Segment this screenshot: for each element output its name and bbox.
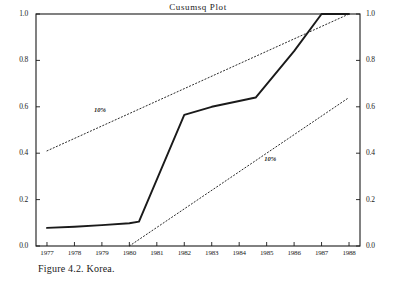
annotation-bound-0: 10% xyxy=(94,106,106,113)
chart-title: Cusumsq Plot xyxy=(0,2,396,12)
y-tick-right-2: 0.6 xyxy=(366,102,392,111)
plot-frame xyxy=(36,14,360,246)
y-tick-right-4: 0.2 xyxy=(366,195,392,204)
annotation-bound-1: 10% xyxy=(264,155,276,162)
y-tick-left-5: 0.0 xyxy=(2,241,28,250)
y-tick-left-3: 0.4 xyxy=(2,148,28,157)
y-tick-right-3: 0.4 xyxy=(366,148,392,157)
x-tick-1988: 1988 xyxy=(332,249,366,257)
y-tick-right-0: 1.0 xyxy=(366,9,392,18)
y-tick-right-5: 0.0 xyxy=(366,241,392,250)
y-tick-left-1: 0.8 xyxy=(2,55,28,64)
y-tick-left-4: 0.2 xyxy=(2,195,28,204)
figure-container: Cusumsq Plot 1.00.80.60.40.20.0 1.00.80.… xyxy=(0,0,396,282)
axis-tickmarks xyxy=(36,14,360,246)
significance-bounds xyxy=(47,14,349,246)
y-tick-left-0: 1.0 xyxy=(2,9,28,18)
y-tick-right-1: 0.8 xyxy=(366,55,392,64)
figure-caption: Figure 4.2. Korea. xyxy=(38,263,115,274)
cusumsq-series xyxy=(47,14,349,228)
y-tick-left-2: 0.6 xyxy=(2,102,28,111)
chart-canvas xyxy=(0,0,396,282)
